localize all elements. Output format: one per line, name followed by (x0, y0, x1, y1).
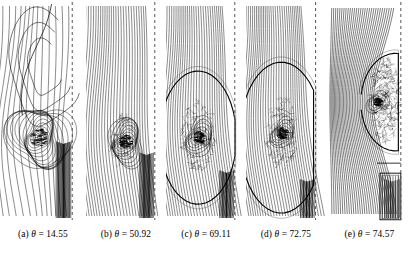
panel-caption-e: (e) θ = 74.57 (326, 228, 413, 240)
contour-canvas-b (86, 0, 166, 222)
caption-symbol-c: θ (194, 229, 199, 239)
caption-symbol-b: θ (115, 229, 120, 239)
caption-value-a: 14.55 (46, 229, 68, 239)
caption-value-d: 72.75 (290, 229, 312, 239)
contour-figure: (a) θ = 14.55(b) θ = 50.92(c) θ = 69.11(… (0, 0, 413, 260)
caption-label-c: (c) (181, 229, 192, 239)
contour-canvas-e (326, 0, 413, 222)
panel-caption-a: (a) θ = 14.55 (0, 228, 86, 240)
panel-row (0, 0, 413, 222)
contour-panel-b (86, 0, 166, 222)
caption-row: (a) θ = 14.55(b) θ = 50.92(c) θ = 69.11(… (0, 222, 413, 246)
contour-canvas-c (166, 0, 246, 222)
panel-caption-d: (d) θ = 72.75 (246, 228, 326, 240)
contour-panel-d (246, 0, 326, 222)
caption-symbol-e: θ (358, 229, 363, 239)
caption-label-a: (a) (18, 229, 29, 239)
caption-equals-a: = (38, 229, 43, 239)
caption-equals-d: = (282, 229, 287, 239)
contour-canvas-d (246, 0, 326, 222)
caption-value-e: 74.57 (373, 229, 395, 239)
caption-symbol-d: θ (275, 229, 280, 239)
contour-panel-c (166, 0, 246, 222)
panel-caption-b: (b) θ = 50.92 (86, 228, 166, 240)
contour-panel-e (326, 0, 413, 222)
caption-equals-b: = (122, 229, 127, 239)
caption-equals-c: = (202, 229, 207, 239)
caption-label-b: (b) (101, 229, 112, 239)
caption-value-c: 69.11 (209, 229, 230, 239)
caption-label-d: (d) (261, 229, 272, 239)
caption-label-e: (e) (345, 229, 356, 239)
caption-equals-e: = (365, 229, 370, 239)
contour-panel-a (0, 0, 86, 222)
caption-value-b: 50.92 (130, 229, 152, 239)
panel-caption-c: (c) θ = 69.11 (166, 228, 246, 240)
contour-canvas-a (0, 0, 86, 222)
caption-symbol-a: θ (31, 229, 36, 239)
